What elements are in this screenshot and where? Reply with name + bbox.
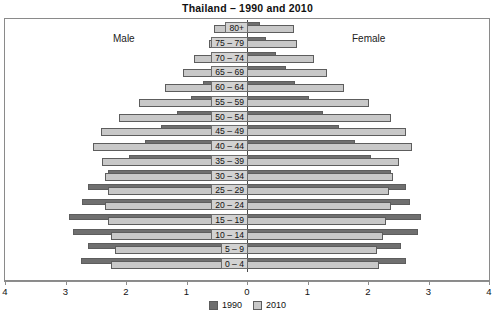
legend-item: 1990 [209, 300, 242, 310]
age-group-label: 50 – 54 [211, 111, 248, 122]
x-axis-tick [126, 281, 127, 285]
legend-label: 2010 [266, 300, 286, 310]
x-axis: 432101234 [4, 281, 490, 283]
legend-swatch-icon [209, 301, 218, 310]
bar-2010-female [247, 173, 393, 181]
age-group-label: 70 – 74 [211, 52, 248, 63]
bar-2010-female [247, 55, 314, 63]
bar-2010-female [247, 25, 294, 33]
age-group-label: 60 – 64 [211, 81, 248, 92]
age-group-label: 80+ [225, 22, 248, 33]
age-group-label: 10 – 14 [211, 229, 248, 240]
bar-2010-female [247, 202, 391, 210]
x-axis-tick-label: 3 [426, 286, 431, 297]
x-axis-tick-label: 2 [123, 286, 128, 297]
age-group-label: 20 – 24 [211, 199, 248, 210]
x-axis-tick-label: 0 [244, 286, 249, 297]
x-axis-tick [247, 281, 248, 285]
age-group-label: 40 – 44 [211, 140, 248, 151]
bar-2010-female [247, 158, 399, 166]
x-axis-tick-label: 3 [63, 286, 68, 297]
x-axis-tick [429, 281, 430, 285]
age-group-label: 55 – 59 [211, 96, 248, 107]
bar-2010-female [247, 217, 386, 225]
legend-swatch-icon [253, 301, 262, 310]
bar-2010-female [247, 246, 377, 254]
chart-legend: 19902010 [0, 300, 495, 310]
x-axis-tick [308, 281, 309, 285]
age-group-label: 30 – 34 [211, 170, 248, 181]
bar-2010-female [247, 114, 391, 122]
age-group-label: 65 – 69 [211, 66, 248, 77]
age-group-label: 5 – 9 [221, 243, 248, 254]
bar-2010-female [247, 261, 379, 269]
x-axis-tick [368, 281, 369, 285]
bar-2010-female [247, 128, 406, 136]
x-axis-tick-label: 4 [2, 286, 7, 297]
bar-2010-female [247, 69, 327, 77]
bar-2010-female [247, 84, 344, 92]
age-group-label: 75 – 79 [211, 37, 248, 48]
age-group-label: 15 – 19 [211, 214, 248, 225]
bar-2010-female [247, 40, 297, 48]
x-axis-tick-label: 1 [305, 286, 310, 297]
bar-2010-female [247, 143, 412, 151]
x-axis-tick [187, 281, 188, 285]
chart-title: Thailand – 1990 and 2010 [0, 2, 495, 14]
bar-2010-female [247, 187, 389, 195]
population-pyramid-chart: Thailand – 1990 and 2010 Male Female 80+… [0, 0, 495, 321]
pyramid-rows: 80+75 – 7970 – 7465 – 6960 – 6455 – 5950… [5, 21, 489, 272]
age-group-label: 25 – 29 [211, 184, 248, 195]
x-axis-tick [66, 281, 67, 285]
x-axis-tick-label: 2 [365, 286, 370, 297]
x-axis-tick [5, 281, 6, 285]
x-axis-tick [489, 281, 490, 285]
age-group-label: 0 – 4 [221, 258, 248, 269]
bar-2010-female [247, 99, 369, 107]
age-group-label: 35 – 39 [211, 155, 248, 166]
legend-label: 1990 [222, 300, 242, 310]
x-axis-tick-label: 1 [184, 286, 189, 297]
x-axis-tick-label: 4 [486, 286, 491, 297]
bar-2010-female [247, 232, 383, 240]
legend-item: 2010 [253, 300, 286, 310]
age-group-label: 45 – 49 [211, 125, 248, 136]
